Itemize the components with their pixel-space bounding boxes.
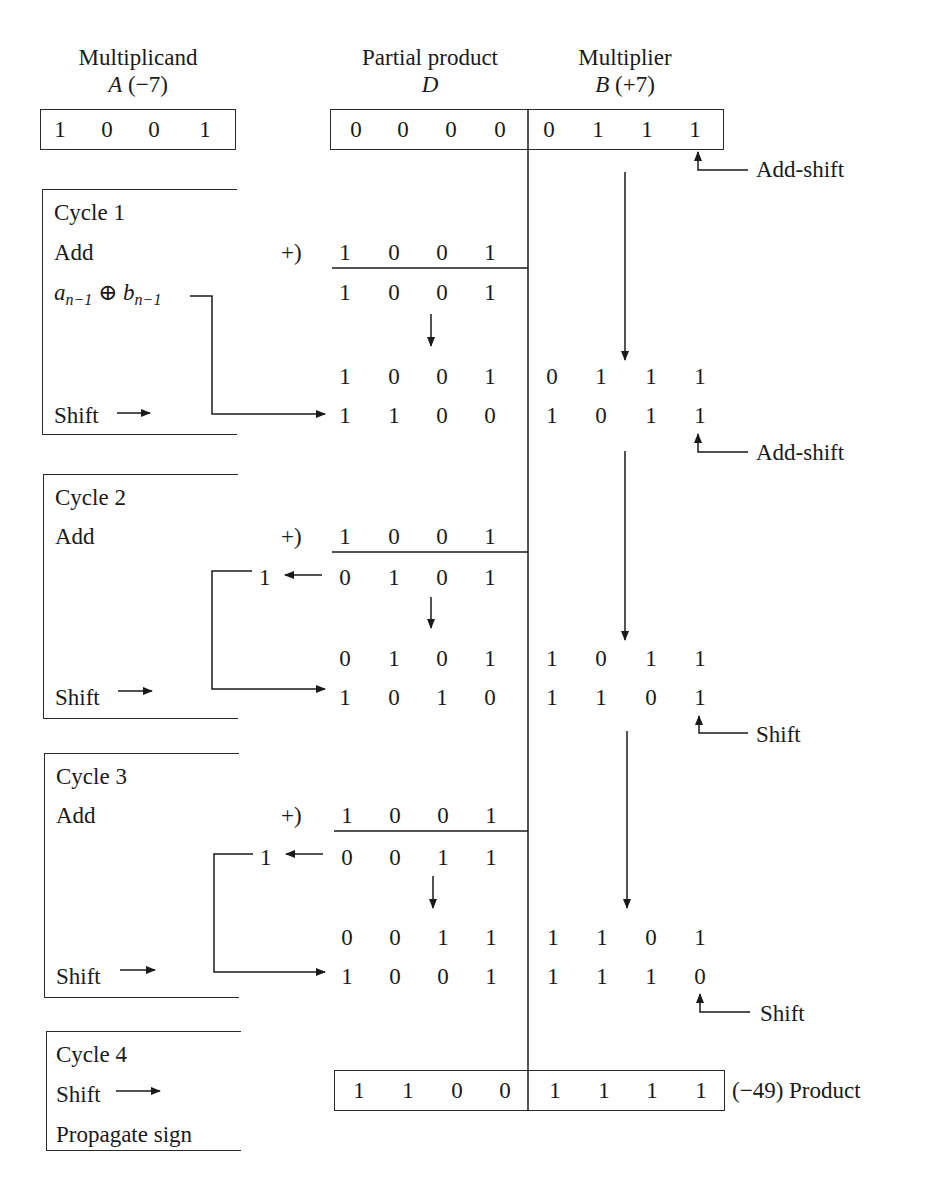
pointer-arrow xyxy=(698,152,748,170)
carry-shift-arrow xyxy=(212,571,325,689)
pointer-arrow xyxy=(700,994,750,1012)
pointer-arrow xyxy=(698,434,748,452)
xor-shift-arrow xyxy=(190,296,325,414)
pointer-arrow xyxy=(699,716,748,733)
connector-lines xyxy=(0,0,936,1181)
carry-shift-arrow xyxy=(214,854,325,972)
